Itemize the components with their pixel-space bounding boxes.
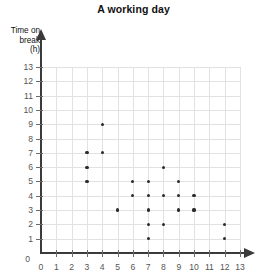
gridline-horizontal <box>41 167 240 168</box>
y-axis-tick-label: 4 <box>11 191 33 201</box>
y-axis-label-line-1: Time on <box>0 26 40 36</box>
x-axis-tick <box>240 250 241 257</box>
y-axis-tick <box>36 224 43 225</box>
y-axis-tick-label: 3 <box>11 205 33 215</box>
x-axis-arrow-icon <box>244 248 255 258</box>
data-point <box>147 208 150 211</box>
y-axis-tick <box>36 81 43 82</box>
x-axis-tick <box>194 250 195 257</box>
x-axis-tick <box>148 250 149 257</box>
y-axis-tick <box>36 96 43 97</box>
y-axis-tick-label: 6 <box>11 162 33 172</box>
x-axis-tick <box>163 250 164 257</box>
x-axis-tick <box>225 250 226 257</box>
gridline-horizontal <box>41 210 240 211</box>
y-axis-tick <box>36 167 43 168</box>
gridline-horizontal <box>41 224 240 225</box>
gridline-horizontal <box>41 96 240 97</box>
y-axis-tick-label: 12 <box>11 76 33 86</box>
x-axis-tick <box>72 250 73 257</box>
gridline-horizontal <box>41 81 240 82</box>
y-axis-tick <box>36 153 43 154</box>
data-point <box>192 208 195 211</box>
y-axis-arrow-icon <box>36 29 46 40</box>
y-axis-tick <box>36 110 43 111</box>
y-axis-tick <box>36 139 43 140</box>
y-axis-tick-label: 11 <box>11 91 33 101</box>
y-axis-tick <box>36 181 43 182</box>
plot-area <box>41 67 240 253</box>
y-axis-tick-label: 1 <box>11 234 33 244</box>
y-axis-tick-label: 8 <box>11 134 33 144</box>
x-axis-tick <box>179 250 180 257</box>
data-point <box>147 180 150 183</box>
data-point <box>101 123 104 126</box>
data-point <box>147 223 150 226</box>
y-axis-label: Time on break (h) <box>0 26 40 55</box>
gridline-horizontal <box>41 153 240 154</box>
data-point <box>162 223 165 226</box>
y-axis-line <box>40 38 42 254</box>
scatter-chart: A working day Time on break (h) 01234567… <box>0 0 267 280</box>
y-axis-label-line-3: (h) <box>0 45 40 55</box>
x-axis-tick <box>87 250 88 257</box>
y-axis-tick <box>36 239 43 240</box>
y-axis-tick-label: 9 <box>11 119 33 129</box>
gridline-vertical <box>240 67 241 253</box>
y-axis-tick-label: 5 <box>11 176 33 186</box>
y-axis-tick <box>36 124 43 125</box>
gridline-horizontal <box>41 196 240 197</box>
x-axis-tick <box>133 250 134 257</box>
data-point <box>147 237 150 240</box>
gridline-horizontal <box>41 124 240 125</box>
x-axis-tick <box>102 250 103 257</box>
y-axis-tick-label: 10 <box>11 105 33 115</box>
data-point <box>116 208 119 211</box>
gridline-horizontal <box>41 139 240 140</box>
x-axis-tick-label: 13 <box>230 262 250 272</box>
x-axis-tick <box>118 250 119 257</box>
y-axis-tick-label: 2 <box>11 219 33 229</box>
gridline-horizontal <box>41 181 240 182</box>
y-axis-label-line-2: break <box>0 36 40 46</box>
y-axis-tick <box>36 210 43 211</box>
data-point <box>85 166 88 169</box>
y-axis-tick-label: 13 <box>11 62 33 72</box>
chart-title: A working day <box>0 3 267 15</box>
x-axis-tick <box>56 250 57 257</box>
gridline-horizontal <box>41 110 240 111</box>
x-axis-tick <box>209 250 210 257</box>
data-point <box>162 166 165 169</box>
gridline-horizontal <box>41 239 240 240</box>
gridline-horizontal <box>41 67 240 68</box>
data-point <box>85 180 88 183</box>
y-axis-tick <box>36 196 43 197</box>
y-axis-tick-label: 0 <box>8 254 30 264</box>
y-axis-tick <box>36 67 43 68</box>
y-axis-tick-label: 7 <box>11 148 33 158</box>
